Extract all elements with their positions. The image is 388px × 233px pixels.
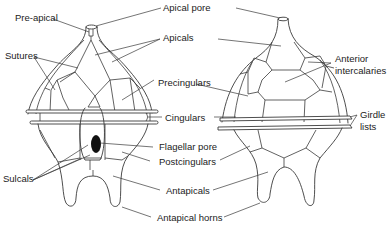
ventral-view-cell — [26, 25, 158, 207]
ventral-pre-apical-plate — [89, 29, 93, 36]
ventral-inner-outline — [36, 40, 147, 114]
leader-pre-apical — [53, 19, 89, 32]
label-anterior-intercalaries-line2: intercalaries — [335, 65, 386, 76]
label-girdle-lists-line2: lists — [360, 121, 377, 132]
label-pre-apical: Pre-apical — [15, 12, 58, 23]
leader-flagellar-pore — [100, 143, 153, 147]
dinoflagellate-diagram: Pre-apical Apical pore Apicals Sutures P… — [0, 0, 388, 233]
dorsal-postcingular-sutures — [250, 130, 320, 167]
ventral-hypotheca-outline — [38, 124, 148, 207]
dorsal-apical-sutures — [240, 42, 334, 122]
label-antapical-horns: Antapical horns — [157, 212, 223, 223]
ventral-girdle-list-upper — [26, 110, 158, 113]
ventral-apical-pore — [86, 25, 97, 29]
label-cingulars: Cingulars — [165, 112, 205, 123]
leader-anterior-intercalaries — [285, 62, 331, 82]
label-flagellar-pore: Flagellar pore — [159, 141, 217, 152]
ventral-postcingular-sutures — [40, 130, 128, 176]
flagellar-pore-icon — [91, 135, 101, 153]
ventral-girdle-list-lower — [30, 121, 158, 124]
ventral-precingular-sutures — [45, 80, 115, 112]
ventral-cingular-sutures — [40, 113, 150, 121]
label-girdle-lists-line1: Girdle — [360, 109, 385, 120]
dorsal-girdle-list-lower — [218, 125, 352, 130]
dorsal-girdle-list-upper — [220, 116, 352, 121]
dorsal-epitheca-outline — [222, 19, 348, 123]
dorsal-view-cell — [218, 17, 352, 205]
label-sulcals: Sulcals — [3, 173, 34, 184]
dorsal-inner-outline — [234, 60, 340, 123]
leader-girdle-lists — [350, 115, 357, 126]
dorsal-hypotheca-outline — [234, 128, 342, 206]
label-precingulars: Precingulars — [158, 77, 211, 88]
label-sutures: Sutures — [5, 50, 38, 61]
label-postcingulars: Postcingulars — [159, 156, 216, 167]
label-apical-pore: Apical pore — [163, 2, 211, 13]
label-anterior-intercalaries-line1: Anterior — [335, 53, 368, 64]
label-antapicals: Antapicals — [166, 185, 210, 196]
label-apicals: Apicals — [163, 32, 194, 43]
ventral-sulcus-outline — [80, 108, 105, 160]
